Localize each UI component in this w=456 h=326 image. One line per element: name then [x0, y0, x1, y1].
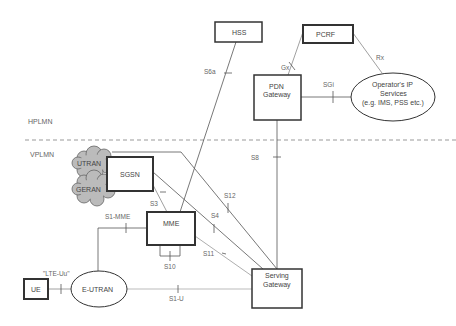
- ue-label: UE: [31, 286, 41, 293]
- geran-label: GERAN: [76, 186, 101, 193]
- s1-u-label: S1-U: [169, 295, 184, 302]
- rx-link: [353, 33, 382, 73]
- pdn-gw-label-2: Gateway: [263, 91, 291, 99]
- pdn-gw-label-1: PDN: [269, 83, 284, 90]
- architecture-diagram: HPLMN VPLMN: [0, 0, 456, 326]
- s8-label: S8: [251, 154, 259, 161]
- serving-gw-label-1: Serving: [265, 272, 289, 280]
- mme-label: MME: [163, 220, 180, 227]
- utran-label: UTRAN: [77, 160, 101, 167]
- s3-label: S3: [150, 200, 158, 207]
- s11-label: S11: [203, 250, 214, 257]
- gx-label: Gx: [281, 64, 290, 71]
- hplmn-label: HPLMN: [28, 118, 53, 125]
- serving-gw-label-2: Gateway: [263, 281, 291, 289]
- ip-services-label-3: (e.g. IMS, PSS etc.): [362, 99, 424, 107]
- sgi-label: SGi: [323, 81, 334, 88]
- rx-label: Rx: [376, 54, 385, 61]
- ip-services-label-2: Services: [380, 90, 407, 97]
- s3-link: [153, 185, 167, 212]
- pcrf-label: PCRF: [316, 31, 335, 38]
- s12-label: S12: [224, 192, 236, 199]
- s6a-label: S6a: [204, 68, 216, 75]
- s10-label: S10: [164, 263, 176, 270]
- s4-label: S4: [211, 212, 219, 219]
- e-utran-label: E-UTRAN: [82, 286, 113, 293]
- hss-label: HSS: [232, 29, 247, 36]
- mme-box: [147, 212, 195, 245]
- s1-mme-link: [98, 228, 147, 271]
- vplmn-label: VPLMN: [30, 151, 54, 158]
- lte-uu-label: "LTE-Uu": [43, 270, 70, 277]
- s1-mme-label: S1-MME: [105, 213, 131, 220]
- ip-services-label-1: Operator's IP: [372, 81, 413, 89]
- gx-link: [288, 32, 303, 75]
- sgsn-label: SGSN: [120, 171, 140, 178]
